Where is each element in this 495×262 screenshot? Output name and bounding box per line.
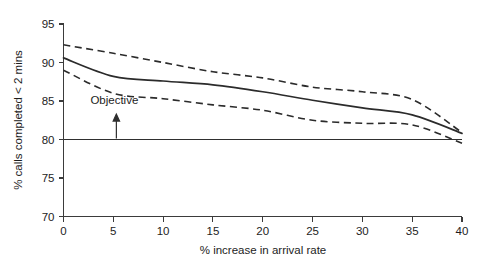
y-tick-label: 95 [42,18,55,30]
x-tick-label: 40 [456,225,469,237]
objective-annotation: Objective [90,94,138,138]
x-tick-label: 20 [256,225,269,237]
confidence-limit-line [64,45,463,133]
y-axis-title: % calls completed < 2 mins [12,50,24,190]
y-tick-label: 75 [42,172,55,184]
chart-container: 707580859095 0510152025303540 Objective … [0,0,495,262]
x-tick-label: 5 [110,225,116,237]
y-axis-ticks: 707580859095 [42,18,64,223]
x-axis-ticks: 0510152025303540 [60,217,468,237]
x-tick-label: 30 [356,225,369,237]
confidence-limit-line [64,70,463,143]
x-tick-label: 0 [60,225,66,237]
x-tick-label: 25 [306,225,319,237]
y-tick-label: 70 [42,211,55,223]
x-axis-title: % increase in arrival rate [200,244,327,256]
objective-annotation-label: Objective [90,94,138,106]
y-tick-label: 85 [42,95,55,107]
x-tick-label: 15 [207,225,220,237]
y-tick-label: 90 [42,57,55,69]
x-tick-label: 35 [406,225,419,237]
x-tick-label: 10 [157,225,170,237]
line-chart: 707580859095 0510152025303540 Objective … [0,0,495,262]
objective-annotation-arrowhead [113,114,119,121]
y-tick-label: 80 [42,134,55,146]
